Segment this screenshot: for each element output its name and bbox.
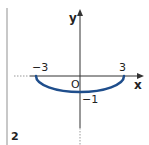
x-axis-label: x bbox=[134, 78, 142, 92]
tick-label-x-neg3: −3 bbox=[32, 61, 48, 74]
tick-label-x-3: 3 bbox=[119, 61, 126, 74]
origin-label: O bbox=[71, 78, 80, 91]
panel-number: 2 bbox=[11, 131, 19, 143]
y-axis-label: y bbox=[69, 11, 77, 25]
y-axis-arrow-icon bbox=[77, 9, 83, 16]
graph: −3 3 −1 O x y bbox=[0, 0, 149, 145]
tick-label-y-neg1: −1 bbox=[82, 93, 98, 106]
